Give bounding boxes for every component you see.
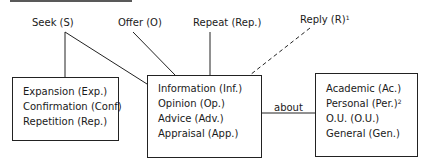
left-box-item: Confirmation (Conf) <box>23 99 118 114</box>
right-box-item: General (Gen.) <box>326 126 417 141</box>
offer-label: Offer (O) <box>118 17 162 29</box>
left-box: Expansion (Exp.) Confirmation (Conf) Rep… <box>12 77 119 141</box>
center-box-item: Advice (Adv.) <box>158 111 261 126</box>
left-box-item: Expansion (Exp.) <box>23 84 118 99</box>
left-box-item: Repetition (Rep.) <box>23 114 118 129</box>
reply-label-group: Reply (R)1 <box>300 14 349 26</box>
reply-footnote-marker: 1 <box>346 14 350 21</box>
personal-footnote-marker: 2 <box>398 98 402 105</box>
center-box-item: Appraisal (App.) <box>158 126 261 141</box>
center-box: Information (Inf.) Opinion (Op.) Advice … <box>147 75 262 158</box>
repeat-label: Repeat (Rep.) <box>193 17 261 29</box>
about-label: about <box>274 102 303 114</box>
seek-label: Seek (S) <box>32 17 74 29</box>
right-box-item: O.U. (O.U.) <box>326 111 417 126</box>
reply-dashed-line <box>250 28 310 75</box>
center-box-item: Opinion (Op.) <box>158 96 261 111</box>
right-box: Academic (Ac.) Personal (Per.)2 O.U. (O.… <box>315 73 418 157</box>
right-box-item: Academic (Ac.) <box>326 81 417 96</box>
offer-line <box>133 32 175 75</box>
reply-label: Reply (R) <box>300 14 346 25</box>
right-box-item-group: Personal (Per.)2 <box>326 96 417 111</box>
right-box-item: Personal (Per.) <box>326 98 398 109</box>
center-box-item: Information (Inf.) <box>158 81 261 96</box>
